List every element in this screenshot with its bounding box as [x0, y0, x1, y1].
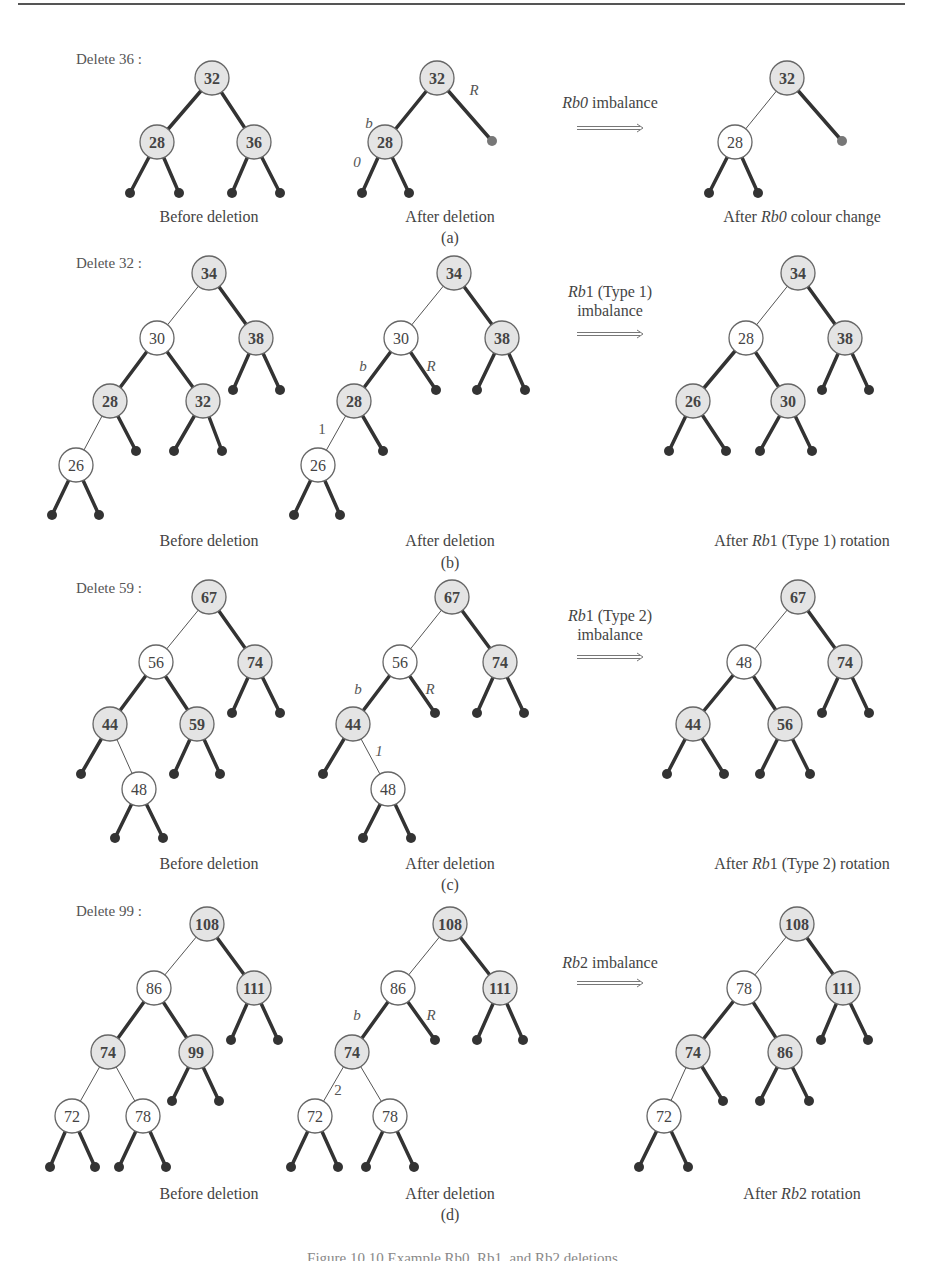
nil-leaf: [333, 1162, 343, 1172]
tree-node: 74: [238, 645, 272, 679]
tree-node: 28: [93, 384, 127, 418]
annotation-label: b: [354, 681, 362, 697]
node-value: 78: [135, 1108, 151, 1125]
node-value: 36: [246, 134, 262, 151]
nil-leaf: [472, 708, 482, 718]
nil-leaf: [520, 385, 530, 395]
node-value: 67: [790, 589, 806, 606]
imbalance-label-line2: imbalance: [577, 626, 643, 643]
imbalance-label: Rb1 (Type 2): [567, 607, 652, 625]
nil-leaf: [131, 446, 141, 456]
nil-leaf: [755, 446, 765, 456]
tree-node: 86: [768, 1035, 802, 1069]
delete-label: Delete 32 :: [76, 255, 142, 271]
nil-leaf: [273, 1035, 283, 1045]
tree-before: 1088611174997278: [45, 907, 283, 1172]
panel-c: Delete 59 :67567444594867567444486748744…: [76, 580, 890, 894]
nil-leaf: [817, 385, 827, 395]
annotation-label: b: [365, 115, 373, 131]
panel-sublabel: (b): [441, 554, 460, 572]
node-value: 86: [390, 980, 406, 997]
nil-leaf: [358, 833, 368, 843]
node-value: 72: [656, 1108, 672, 1125]
caption-before: Before deletion: [159, 208, 258, 225]
node-value: 59: [189, 716, 205, 733]
node-value: 34: [790, 265, 806, 282]
node-value: 38: [248, 330, 264, 347]
node-value: 111: [243, 980, 265, 997]
nil-leaf: [110, 833, 120, 843]
nil-leaf: [472, 1035, 482, 1045]
nil-leaf: [683, 1162, 693, 1172]
panel-d: Delete 99 :10886111749972781088611174727…: [45, 903, 873, 1224]
node-value: 32: [204, 70, 220, 87]
nil-leaf: [378, 446, 388, 456]
nil-leaf: [807, 446, 817, 456]
node-value: 26: [310, 457, 326, 474]
annotation-label: R: [425, 1007, 435, 1023]
nil-leaf: [45, 1162, 55, 1172]
nil-leaf: [335, 510, 345, 520]
tree-before: 322836: [125, 61, 285, 198]
nil-leaf: [217, 446, 227, 456]
tree-node: 44: [676, 707, 710, 741]
nil-leaf: [275, 385, 285, 395]
node-value: 56: [148, 654, 164, 671]
node-value: 72: [307, 1108, 323, 1125]
caption-result: After Rb0 colour change: [723, 208, 881, 226]
node-value: 108: [438, 916, 462, 933]
node-value: 111: [832, 980, 854, 997]
tree-node: 67: [435, 580, 469, 614]
double-arrow-icon: [577, 979, 643, 987]
nil-leaf: [864, 708, 874, 718]
node-value: 44: [345, 716, 361, 733]
node-value: 74: [247, 654, 263, 671]
tree-node: 78: [373, 1099, 407, 1133]
nil-leaf: [228, 385, 238, 395]
imbalance-transition: Rb1 (Type 1)imbalance: [567, 283, 652, 338]
tree-after: 10886111747278: [286, 907, 528, 1172]
nil-leaf: [662, 769, 672, 779]
tree-node: 28: [140, 125, 174, 159]
tree-node: 32: [420, 61, 454, 95]
imbalance-label: Rb0 imbalance: [561, 94, 658, 111]
tree-node: 38: [828, 321, 862, 355]
node-value: 99: [188, 1044, 204, 1061]
tree-node: 74: [335, 1035, 369, 1069]
node-value: 38: [494, 330, 510, 347]
caption-after: After deletion: [405, 532, 494, 549]
tree-node: 32: [770, 61, 804, 95]
double-arrow-icon: [577, 330, 643, 338]
tree-node: 111: [826, 971, 860, 1005]
nil-leaf: [47, 510, 57, 520]
node-value: 32: [429, 70, 445, 87]
tree-after: 3430382826: [289, 256, 530, 520]
nil-leaf: [864, 385, 874, 395]
panel-sublabel: (a): [441, 229, 459, 247]
delete-label: Delete 99 :: [76, 903, 142, 919]
annotation-label: 2: [334, 1082, 342, 1098]
node-value: 26: [685, 393, 701, 410]
tree-node: 72: [647, 1099, 681, 1133]
node-value: 111: [489, 980, 511, 997]
double-arrow-icon: [577, 653, 643, 661]
node-value: 74: [492, 654, 508, 671]
tree-before: 343038283226: [47, 256, 285, 520]
node-value: 28: [102, 393, 118, 410]
tree-node: 38: [485, 321, 519, 355]
nil-leaf: [161, 1162, 171, 1172]
tree-node: 72: [55, 1099, 89, 1133]
nil-leaf: [227, 188, 237, 198]
delete-label: Delete 59 :: [76, 580, 142, 596]
tree-before: 675674445948: [76, 580, 285, 843]
tree-node: 28: [729, 321, 763, 355]
tree-node: 74: [676, 1035, 710, 1069]
delete-label: Delete 36 :: [76, 51, 142, 67]
node-value: 56: [777, 716, 793, 733]
nil-leaf: [755, 769, 765, 779]
tree-node: 78: [126, 1099, 160, 1133]
nil-leaf: [721, 446, 731, 456]
annotation-label: R: [424, 681, 434, 697]
tree-node: 34: [781, 256, 815, 290]
node-value: 34: [201, 265, 217, 282]
